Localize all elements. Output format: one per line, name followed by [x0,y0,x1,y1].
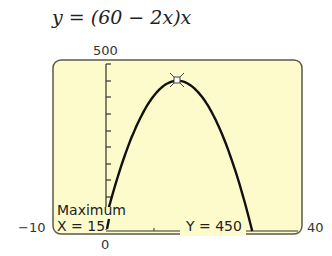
calc-title: Maximum [57,202,126,218]
y-readout: Y = 450 [186,218,242,234]
calculator-screen [0,0,332,256]
x-readout: X = 15 [57,218,105,234]
